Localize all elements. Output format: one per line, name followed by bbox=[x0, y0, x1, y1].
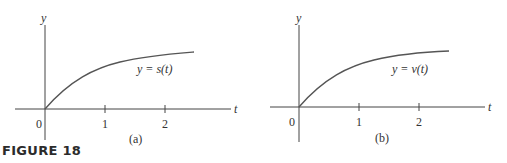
curve-v bbox=[299, 51, 449, 107]
tick-label-2: 2 bbox=[162, 117, 168, 131]
panel-b: y t 0 1 2 y = v(t) (b) bbox=[270, 11, 492, 145]
figure-caption: FIGURE 18 bbox=[2, 143, 81, 158]
panel-a: y t 0 1 2 y = s(t) (a) bbox=[15, 11, 238, 146]
panel-label: (b) bbox=[375, 131, 389, 145]
panel-label: (a) bbox=[129, 132, 142, 146]
figure-canvas: y t 0 1 2 y = s(t) (a) y t 0 1 2 y = v(t… bbox=[0, 0, 507, 163]
y-axis-label: y bbox=[295, 11, 302, 25]
tick-label-2: 2 bbox=[416, 115, 422, 129]
x-axis-label: t bbox=[234, 102, 238, 116]
curve-label: y = v(t) bbox=[391, 62, 428, 76]
tick-label-0: 0 bbox=[289, 115, 295, 129]
tick-label-1: 1 bbox=[356, 115, 362, 129]
curve-label: y = s(t) bbox=[136, 62, 172, 76]
curve-s bbox=[45, 52, 194, 109]
x-axis-label: t bbox=[488, 100, 492, 114]
y-axis-label: y bbox=[40, 11, 47, 25]
tick-label-0: 0 bbox=[36, 117, 42, 131]
tick-label-1: 1 bbox=[102, 117, 108, 131]
